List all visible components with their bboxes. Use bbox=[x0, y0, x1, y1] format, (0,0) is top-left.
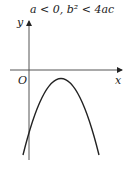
parabola-curve bbox=[23, 79, 99, 156]
y-axis-label: y bbox=[16, 16, 24, 29]
origin-label: O bbox=[18, 74, 27, 87]
parabola-diagram: a < 0, b² < 4ac y O x bbox=[0, 0, 129, 174]
x-axis-label: x bbox=[115, 74, 122, 87]
condition-title: a < 0, b² < 4ac bbox=[30, 3, 114, 16]
